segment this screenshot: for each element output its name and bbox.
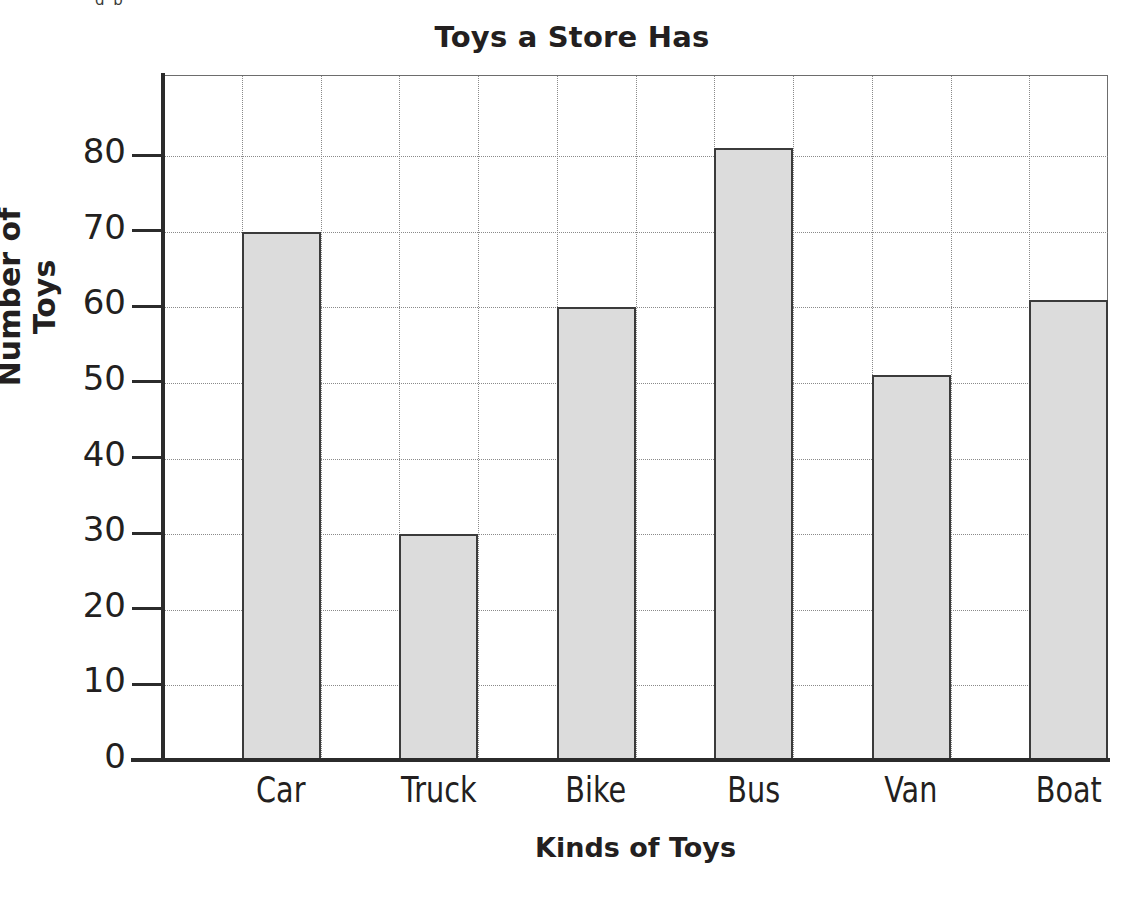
category-label-bus: Bus [689,770,818,810]
bar-chart-figure: g p Toys a Store Has Number of Toys Kind… [0,0,1144,919]
bar-truck [399,534,478,761]
bar-bus [714,148,793,761]
y-tick-label: 20 [6,585,126,625]
y-tick-mark [132,380,163,383]
plot-area [163,75,1108,760]
x-axis-title: Kinds of Toys [163,832,1108,863]
y-axis-tick-labels: 01020304050607080 [0,0,126,919]
category-label-truck: Truck [374,770,503,810]
y-tick-mark [132,456,163,459]
y-tick-label: 0 [6,736,126,776]
y-tick-label: 80 [6,131,126,171]
x-axis-line [131,758,1110,762]
y-tick-mark [132,607,163,610]
bar-boat [1029,300,1108,761]
y-tick-label: 50 [6,358,126,398]
y-tick-mark [132,759,163,762]
chart-title: Toys a Store Has [0,20,1144,54]
y-tick-mark [132,229,163,232]
y-tick-label: 10 [6,660,126,700]
vertical-gridline [478,76,479,761]
category-label-van: Van [847,770,976,810]
y-tick-mark [132,305,163,308]
category-label-boat: Boat [1004,770,1133,810]
bar-van [872,375,951,761]
y-axis-line [161,73,165,762]
bar-bike [557,307,636,761]
vertical-gridline [321,76,322,761]
y-tick-mark [132,532,163,535]
y-tick-mark [132,683,163,686]
vertical-gridline [636,76,637,761]
y-tick-mark [132,154,163,157]
y-tick-label: 70 [6,207,126,247]
bar-car [242,232,321,761]
y-tick-label: 60 [6,282,126,322]
category-label-car: Car [217,770,346,810]
vertical-gridline [951,76,952,761]
category-label-bike: Bike [532,770,661,810]
y-tick-label: 30 [6,509,126,549]
horizontal-gridline [163,156,1108,157]
vertical-gridline [793,76,794,761]
y-tick-label: 40 [6,434,126,474]
